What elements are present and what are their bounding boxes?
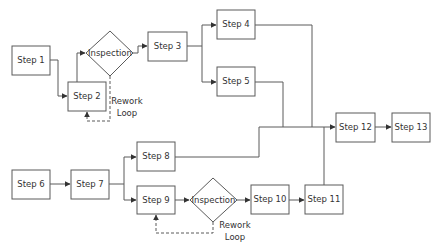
rework-label-line-1: Rework — [219, 220, 250, 230]
node-label: Step 9 — [142, 195, 169, 205]
rework-loop-2 — [156, 215, 213, 233]
node-label: Step 13 — [395, 122, 428, 132]
node-step-5: Step 5 — [217, 67, 255, 96]
rework-loop-1-label: Rework Loop — [111, 96, 142, 118]
node-step-2: Step 2 — [68, 82, 106, 111]
edge-s7-s8 — [124, 157, 136, 184]
node-step-9: Step 9 — [137, 186, 175, 214]
node-step-7: Step 7 — [71, 170, 109, 199]
edge-s3-s5 — [202, 46, 216, 82]
node-label: Step 5 — [222, 76, 249, 86]
rework-label-line-1: Rework — [111, 96, 142, 106]
node-label: Step 12 — [339, 122, 372, 132]
node-label: Step 4 — [222, 19, 249, 29]
edge-s5-merge — [255, 82, 283, 127]
node-step-13: Step 13 — [392, 113, 430, 142]
node-label: Step 2 — [73, 91, 100, 101]
node-step-4: Step 4 — [217, 10, 255, 39]
edge-s7-s9 — [124, 184, 136, 200]
node-step-6: Step 6 — [12, 170, 50, 199]
node-label: Step 8 — [142, 151, 169, 161]
edge-s2-i1 — [77, 53, 85, 82]
node-step-12: Step 12 — [336, 113, 375, 142]
node-inspection-2: Inspection — [190, 178, 237, 222]
node-label: Step 1 — [17, 55, 44, 65]
node-label: Inspection — [192, 195, 236, 205]
rework-label-line-2: Loop — [225, 232, 245, 242]
node-step-8: Step 8 — [137, 142, 175, 171]
edge-s1-s2 — [50, 60, 67, 96]
node-label: Step 6 — [17, 179, 44, 189]
rework-loop-2-label: Rework Loop — [219, 220, 250, 242]
node-step-10: Step 10 — [251, 185, 289, 214]
node-step-3: Step 3 — [148, 32, 187, 61]
node-label: Step 10 — [254, 194, 287, 204]
edge-s3-s4 — [202, 25, 216, 46]
edge-i1-s3 — [133, 46, 147, 53]
flowchart: Step 1 Step 2 Inspection Step 3 Step 4 S… — [0, 0, 441, 249]
node-step-1: Step 1 — [12, 46, 50, 75]
node-label: Step 11 — [308, 194, 341, 204]
edge-s8-merge — [175, 127, 259, 157]
rework-label-line-2: Loop — [117, 108, 137, 118]
node-inspection-1: Inspection — [86, 31, 133, 76]
node-label: Step 3 — [154, 41, 181, 51]
node-step-11: Step 11 — [305, 185, 343, 214]
node-label: Inspection — [88, 48, 132, 58]
node-label: Step 7 — [76, 179, 103, 189]
